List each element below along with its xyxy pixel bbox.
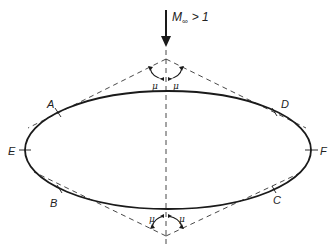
point-label-d: D [281, 98, 289, 110]
point-ticks [19, 108, 318, 193]
mach-lines [28, 50, 306, 245]
bottom-left-mu-label: μ [149, 214, 155, 224]
bottom-right-mu-label: μ [179, 214, 185, 224]
freestream-arrow [161, 10, 171, 47]
point-label-e: E [8, 145, 16, 157]
point-label-c: C [273, 194, 281, 206]
top-right-mu-label: μ [173, 81, 179, 91]
bottom-mach-angle-arcs [152, 216, 182, 227]
elliptical-body [25, 91, 311, 209]
top-left-mu-label: μ [152, 81, 158, 91]
freestream-mach-label: M∞> 1 [172, 10, 209, 26]
point-label-f: F [320, 145, 328, 157]
point-label-b: B [50, 197, 57, 209]
supersonic-ellipse-diagram: M∞> 1 A B C D E F μ μ [0, 0, 333, 249]
point-label-a: A [46, 98, 54, 110]
